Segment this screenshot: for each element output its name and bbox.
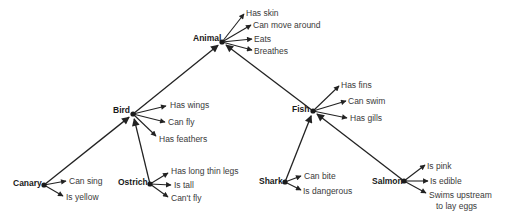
property-arrow-salmon: [404, 181, 426, 193]
property-label-ostrich: Has long thin legs: [171, 166, 239, 176]
property-label-animal: Eats: [254, 34, 271, 44]
property-label-animal: Breathes: [254, 46, 288, 56]
property-label-salmon: Is pink: [427, 161, 452, 171]
property-label-salmon: Is edible: [430, 176, 462, 186]
node-dot-ostrich: [147, 181, 152, 186]
property-arrow-ostrich: [150, 184, 168, 197]
node-label-bird: Bird: [113, 105, 130, 115]
isa-edge-canary-to-bird: [46, 117, 130, 184]
property-label-salmon: Swims upstream: [429, 190, 492, 200]
property-arrow-shark: [285, 182, 301, 190]
isa-edges: [46, 45, 403, 184]
node-dot-bird: [130, 111, 135, 116]
property-label-ostrich: Can't fly: [171, 193, 202, 203]
property-label-salmon: to lay eggs: [436, 201, 477, 211]
property-label-shark: Is dangerous: [303, 186, 352, 196]
semantic-network-diagram: Has skinCan move aroundEatsBreathesHas w…: [0, 0, 506, 221]
concept-nodes: AnimalBirdFishCanaryOstrichSharkSalmon: [13, 33, 407, 188]
node-label-animal: Animal: [193, 33, 221, 43]
property-arrow-salmon: [404, 165, 425, 181]
property-label-fish: Has gills: [350, 113, 382, 123]
node-dot-canary: [41, 182, 46, 187]
node-dot-shark: [282, 179, 287, 184]
property-label-canary: Can sing: [69, 176, 103, 186]
property-arrow-ostrich: [150, 173, 168, 184]
property-label-animal: Has skin: [246, 8, 279, 18]
property-arrow-canary: [44, 185, 63, 196]
property-label-bird: Has feathers: [159, 134, 207, 144]
property-label-animal: Can move around: [253, 20, 321, 30]
node-label-salmon: Salmon: [372, 176, 403, 186]
node-label-shark: Shark: [259, 176, 283, 186]
node-label-canary: Canary: [13, 178, 42, 188]
node-label-ostrich: Ostrich: [118, 177, 148, 187]
property-label-fish: Has fins: [341, 80, 372, 90]
property-arrow-ostrich: [150, 184, 171, 185]
property-label-fish: Can swim: [348, 96, 385, 106]
node-label-fish: Fish: [292, 104, 309, 114]
isa-edge-salmon-to-fish: [317, 114, 402, 180]
property-arrow-animal: [222, 14, 244, 42]
property-label-canary: Is yellow: [66, 192, 99, 202]
node-dot-fish: [310, 108, 315, 113]
property-label-bird: Has wings: [170, 100, 209, 110]
property-label-bird: Can fly: [168, 117, 195, 127]
property-label-shark: Can bite: [304, 171, 336, 181]
property-label-ostrich: Is tall: [174, 180, 194, 190]
diagram-canvas: Has skinCan move aroundEatsBreathesHas w…: [0, 0, 506, 221]
